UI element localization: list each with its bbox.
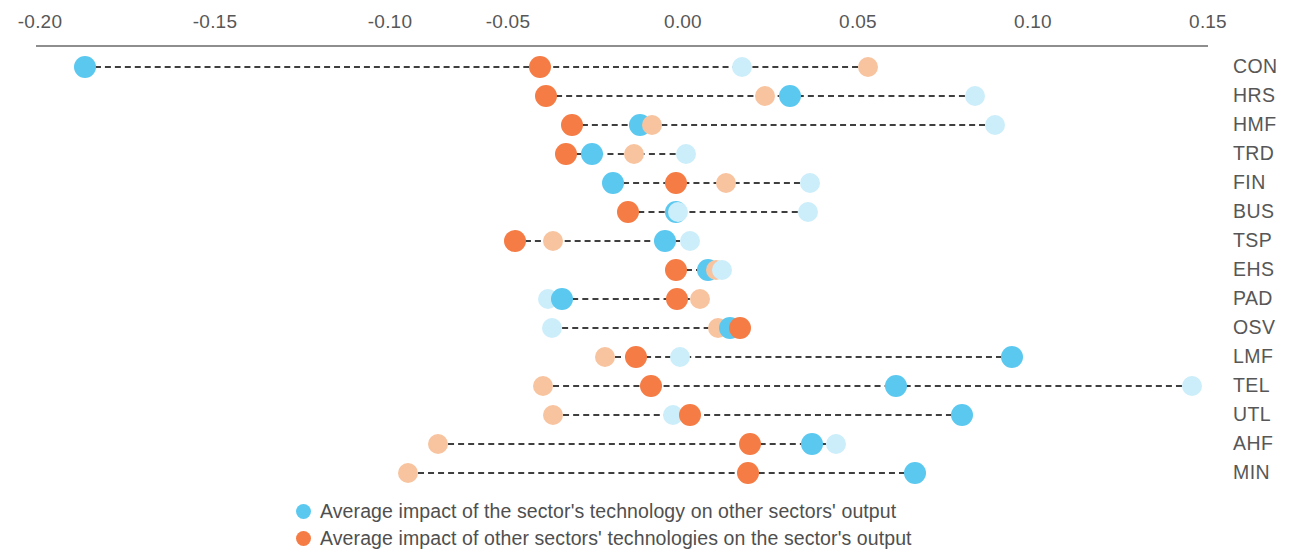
- data-point-orange-light[interactable]: [858, 57, 878, 77]
- x-axis-tick-label: 0.10: [1014, 11, 1052, 33]
- data-point-orange[interactable]: [665, 259, 687, 281]
- chart-row: TRD: [0, 139, 1290, 168]
- data-point-orange[interactable]: [625, 346, 647, 368]
- dumbbell-chart: -0.20-0.15-0.10-0.050.000.050.100.15 CON…: [0, 0, 1290, 554]
- data-point-blue-light[interactable]: [676, 144, 696, 164]
- data-point-orange[interactable]: [739, 433, 761, 455]
- data-point-blue-light[interactable]: [800, 173, 820, 193]
- chart-row: LMF: [0, 342, 1290, 371]
- data-point-blue-light[interactable]: [732, 57, 752, 77]
- chart-row: TSP: [0, 226, 1290, 255]
- data-point-orange-light[interactable]: [543, 405, 563, 425]
- row-category-label: TEL: [1233, 371, 1270, 400]
- legend-marker-icon: [296, 531, 311, 546]
- data-point-blue-light[interactable]: [670, 347, 690, 367]
- data-point-blue-light[interactable]: [826, 434, 846, 454]
- chart-row: HMF: [0, 110, 1290, 139]
- row-connector-line: [628, 211, 808, 213]
- data-point-blue-light[interactable]: [668, 202, 688, 222]
- row-connector-line: [613, 182, 810, 184]
- row-category-label: HMF: [1233, 110, 1276, 139]
- row-category-label: CON: [1233, 52, 1278, 81]
- chart-row: TEL: [0, 371, 1290, 400]
- data-point-blue-light[interactable]: [798, 202, 818, 222]
- x-axis-tick-label: -0.20: [18, 11, 62, 33]
- chart-row: MIN: [0, 458, 1290, 487]
- data-point-blue-light[interactable]: [680, 231, 700, 251]
- data-point-blue[interactable]: [602, 172, 624, 194]
- legend-item[interactable]: Average impact of other sectors' technol…: [296, 525, 1196, 552]
- data-point-orange-light[interactable]: [428, 434, 448, 454]
- data-point-blue-light[interactable]: [542, 318, 562, 338]
- data-point-orange[interactable]: [729, 317, 751, 339]
- chart-row: BUS: [0, 197, 1290, 226]
- chart-row: PAD: [0, 284, 1290, 313]
- data-point-blue[interactable]: [581, 143, 603, 165]
- data-point-blue[interactable]: [779, 85, 801, 107]
- x-axis-tick-label: -0.05: [486, 11, 530, 33]
- row-category-label: LMF: [1233, 342, 1273, 371]
- data-point-orange[interactable]: [617, 201, 639, 223]
- data-point-orange[interactable]: [666, 288, 688, 310]
- row-category-label: HRS: [1233, 81, 1275, 110]
- data-point-orange-light[interactable]: [716, 173, 736, 193]
- chart-row: HRS: [0, 81, 1290, 110]
- data-point-orange-light[interactable]: [533, 376, 553, 396]
- data-point-orange[interactable]: [504, 230, 526, 252]
- data-point-blue[interactable]: [801, 433, 823, 455]
- data-point-orange-light[interactable]: [642, 115, 662, 135]
- data-point-blue[interactable]: [551, 288, 573, 310]
- row-category-label: FIN: [1233, 168, 1266, 197]
- data-point-orange[interactable]: [535, 85, 557, 107]
- row-connector-line: [438, 443, 836, 445]
- x-axis-tick-label: 0.00: [664, 11, 702, 33]
- chart-row: FIN: [0, 168, 1290, 197]
- chart-row: UTL: [0, 400, 1290, 429]
- data-point-orange-light[interactable]: [398, 463, 418, 483]
- data-point-orange[interactable]: [665, 172, 687, 194]
- row-category-label: PAD: [1233, 284, 1273, 313]
- chart-row: CON: [0, 52, 1290, 81]
- row-category-label: MIN: [1233, 458, 1270, 487]
- data-point-blue-light[interactable]: [985, 115, 1005, 135]
- data-point-orange-light[interactable]: [690, 289, 710, 309]
- row-category-label: TRD: [1233, 139, 1274, 168]
- data-point-blue-light[interactable]: [712, 260, 732, 280]
- row-category-label: TSP: [1233, 226, 1272, 255]
- x-axis-tick-label: 0.05: [839, 11, 877, 33]
- data-point-blue[interactable]: [885, 375, 907, 397]
- data-point-blue[interactable]: [74, 56, 96, 78]
- data-point-orange[interactable]: [640, 375, 662, 397]
- data-point-blue[interactable]: [654, 230, 676, 252]
- data-point-blue[interactable]: [1001, 346, 1023, 368]
- data-point-blue-light[interactable]: [965, 86, 985, 106]
- data-point-blue[interactable]: [951, 404, 973, 426]
- data-point-orange[interactable]: [737, 462, 759, 484]
- row-connector-line: [605, 356, 1012, 358]
- data-point-blue-light[interactable]: [1182, 376, 1202, 396]
- data-point-orange-light[interactable]: [755, 86, 775, 106]
- chart-legend: Average impact of the sector's technolog…: [296, 498, 1196, 552]
- row-category-label: OSV: [1233, 313, 1275, 342]
- x-axis-tick-label: -0.15: [193, 11, 237, 33]
- row-category-label: BUS: [1233, 197, 1274, 226]
- data-point-orange[interactable]: [529, 56, 551, 78]
- data-point-orange-light[interactable]: [624, 144, 644, 164]
- legend-item[interactable]: Average impact of the sector's technolog…: [296, 498, 1196, 525]
- row-connector-line: [408, 472, 915, 474]
- row-connector-line: [553, 414, 962, 416]
- data-point-orange-light[interactable]: [543, 231, 563, 251]
- data-point-blue[interactable]: [904, 462, 926, 484]
- row-category-label: AHF: [1233, 429, 1273, 458]
- legend-label: Average impact of the sector's technolog…: [320, 500, 896, 523]
- data-point-orange[interactable]: [561, 114, 583, 136]
- row-category-label: EHS: [1233, 255, 1274, 284]
- x-axis-line: [36, 45, 1208, 47]
- data-point-orange-light[interactable]: [595, 347, 615, 367]
- legend-label: Average impact of other sectors' technol…: [320, 527, 912, 550]
- chart-row: AHF: [0, 429, 1290, 458]
- row-category-label: UTL: [1233, 400, 1271, 429]
- data-point-orange[interactable]: [555, 143, 577, 165]
- data-point-orange[interactable]: [679, 404, 701, 426]
- x-axis-tick-label: 0.15: [1189, 11, 1227, 33]
